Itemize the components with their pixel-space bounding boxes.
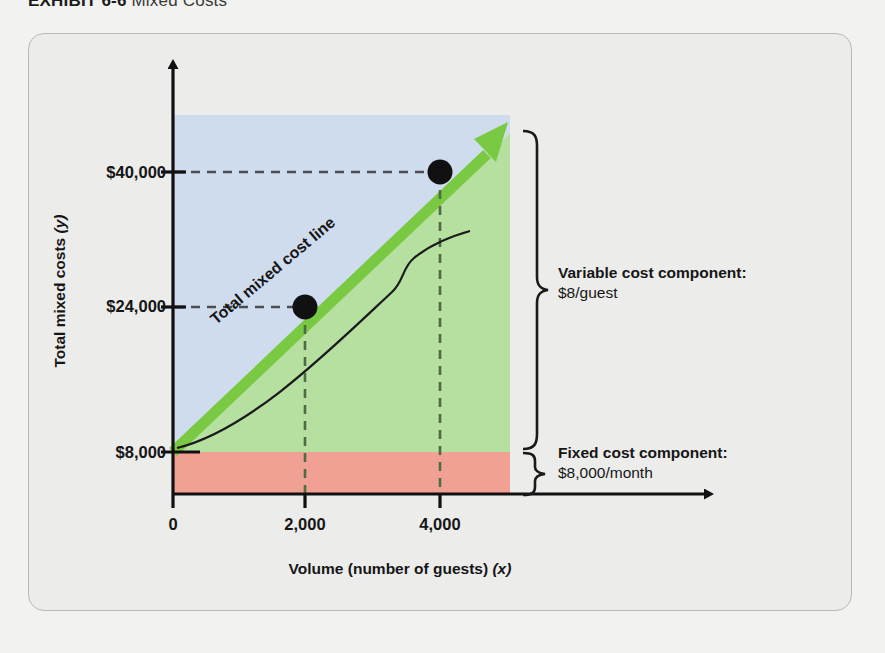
fixed-cost-heading: Fixed cost component: — [558, 443, 728, 463]
variable-cost-annotation: Variable cost component: $8/guest — [558, 263, 747, 304]
exhibit-title-label: EXHIBIT 6-6 — [28, 0, 127, 10]
x-tick-label-0: 0 — [153, 515, 193, 534]
y-axis-title-main: Total mixed costs — [51, 233, 68, 367]
exhibit-title: EXHIBIT 6-6 Mixed Costs — [28, 0, 227, 11]
x-axis-title-variable: (x) — [492, 560, 511, 577]
fixed-cost-annotation: Fixed cost component: $8,000/month — [558, 443, 728, 484]
variable-cost-heading: Variable cost component: — [558, 263, 747, 283]
variable-cost-detail: $8/guest — [558, 283, 747, 303]
y-tick-label-8000: $8,000 — [52, 443, 166, 462]
y-axis-title-variable: (y) — [51, 214, 68, 233]
y-axis-title: Total mixed costs (y) — [51, 196, 69, 386]
exhibit-figure: EXHIBIT 6-6 Mixed Costs — [0, 0, 885, 653]
x-tick-label-2000: 2,000 — [267, 515, 343, 534]
x-axis-title-main: Volume (number of guests) — [289, 560, 493, 577]
x-axis-title: Volume (number of guests) (x) — [190, 560, 610, 578]
x-tick-label-4000: 4,000 — [402, 515, 478, 534]
exhibit-title-name: Mixed Costs — [132, 0, 228, 10]
y-tick-label-24000: $24,000 — [52, 297, 166, 316]
y-tick-label-40000: $40,000 — [52, 163, 166, 182]
fixed-cost-detail: $8,000/month — [558, 463, 728, 483]
